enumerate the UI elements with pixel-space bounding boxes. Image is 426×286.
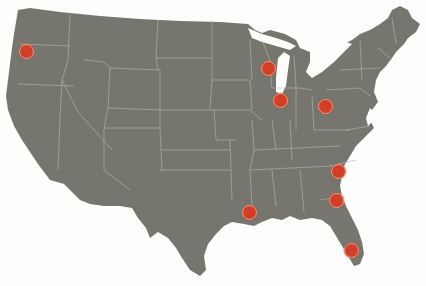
us-landmass xyxy=(6,6,420,276)
map-pin-icon[interactable] xyxy=(318,99,333,114)
map-pin-icon[interactable] xyxy=(19,44,34,59)
map-pin-icon[interactable] xyxy=(242,205,257,220)
map-pin-icon[interactable] xyxy=(344,243,359,258)
map-pin-icon[interactable] xyxy=(273,93,288,108)
us-map xyxy=(0,0,426,286)
map-pin-icon[interactable] xyxy=(261,61,276,76)
map-pin-icon[interactable] xyxy=(329,193,344,208)
us-map-outline xyxy=(0,0,426,286)
map-pin-icon[interactable] xyxy=(331,164,346,179)
